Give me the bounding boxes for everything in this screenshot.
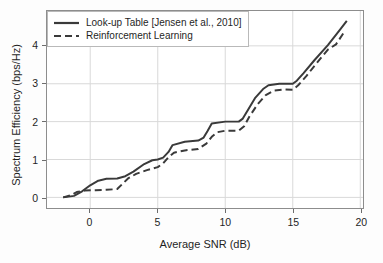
legend-label-lookup-table: Look-up Table [Jensen et al., 2010] — [86, 18, 241, 28]
x-tick-mark — [225, 209, 226, 213]
legend-line-solid-icon — [53, 18, 80, 28]
x-tick-mark — [157, 209, 158, 213]
y-tick-mark — [42, 121, 46, 122]
series-line-2 — [63, 32, 344, 197]
x-tick-label: 0 — [87, 217, 93, 228]
figure-canvas: 05101520 01234 Average SNR (dB) Spectrum… — [0, 0, 383, 263]
y-tick-mark — [42, 160, 46, 161]
x-tick-label: 5 — [155, 217, 161, 228]
y-axis-title: Spectrum Efficiency (bps/Hz) — [10, 15, 22, 215]
y-tick-label: 1 — [20, 155, 38, 166]
y-tick-label: 3 — [20, 78, 38, 89]
x-axis-title: Average SNR (dB) — [46, 238, 364, 250]
y-tick-mark — [42, 83, 46, 84]
legend-item: Reinforcement Learning — [53, 29, 241, 42]
y-tick-mark — [42, 45, 46, 46]
y-tick-label: 2 — [20, 116, 38, 127]
legend-line-dashed-icon — [53, 31, 80, 41]
y-tick-mark — [42, 198, 46, 199]
y-tick-label: 4 — [20, 40, 38, 51]
series-line-1 — [63, 21, 347, 198]
x-tick-label: 10 — [220, 217, 232, 228]
legend-label-reinforcement-learning: Reinforcement Learning — [86, 31, 193, 41]
x-tick-mark — [89, 209, 90, 213]
x-tick-label: 20 — [355, 217, 367, 228]
x-tick-label: 15 — [287, 217, 299, 228]
legend-item: Look-up Table [Jensen et al., 2010] — [53, 16, 241, 29]
x-tick-mark — [293, 209, 294, 213]
x-tick-mark — [361, 209, 362, 213]
legend: Look-up Table [Jensen et al., 2010] Rein… — [47, 11, 249, 47]
y-tick-label: 0 — [20, 193, 38, 204]
